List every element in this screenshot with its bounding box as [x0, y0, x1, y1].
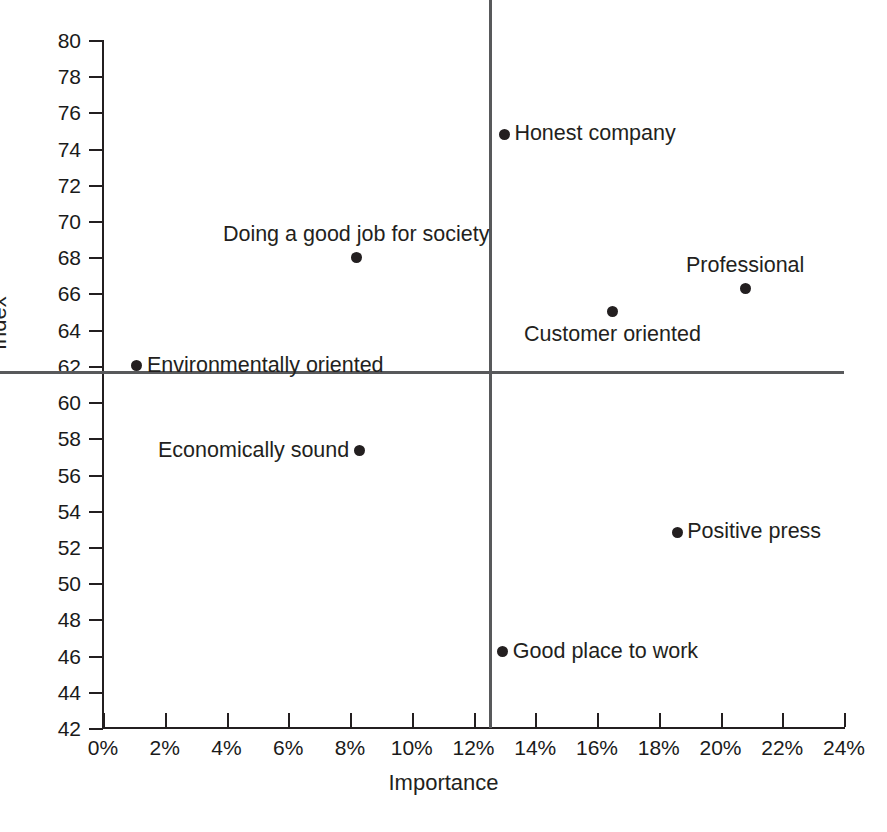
data-point-label: Honest company: [514, 123, 675, 145]
y-axis-tick-labels: 8078767472706866646260585654525048464442: [0, 40, 103, 728]
y-tick-label: 46: [58, 645, 81, 666]
y-tick-label: 64: [58, 319, 81, 340]
x-tick-label: 8%: [335, 737, 365, 758]
x-axis-tick-labels: 0%2%4%6%8%10%12%14%16%18%20%22%24%: [103, 737, 844, 763]
x-tick-label: 12%: [452, 737, 494, 758]
y-tick-label: 52: [58, 536, 81, 557]
x-tick-label: 18%: [638, 737, 680, 758]
x-tick-label: 2%: [150, 737, 180, 758]
y-axis-title: Index: [0, 296, 10, 350]
y-tick-label: 48: [58, 609, 81, 630]
x-tick-mark: [844, 713, 846, 727]
data-point[interactable]: [354, 445, 365, 456]
data-point-label: Environmentally oriented: [147, 355, 384, 377]
data-point[interactable]: [351, 252, 362, 263]
x-tick-label: 0%: [88, 737, 118, 758]
y-tick-label: 78: [58, 66, 81, 87]
scatter-chart: 8078767472706866646260585654525048464442…: [0, 0, 887, 832]
y-tick-label: 54: [58, 500, 81, 521]
x-tick-label: 24%: [823, 737, 865, 758]
y-tick-label: 74: [58, 138, 81, 159]
data-point[interactable]: [740, 283, 751, 294]
data-point[interactable]: [131, 360, 142, 371]
quadrant-divider-vertical: [489, 0, 492, 728]
y-tick-label: 58: [58, 428, 81, 449]
data-point-label: Economically sound: [158, 440, 349, 462]
x-tick-label: 6%: [273, 737, 303, 758]
y-tick-label: 44: [58, 681, 81, 702]
y-tick-label: 56: [58, 464, 81, 485]
y-tick-label: 42: [58, 718, 81, 739]
x-tick-label: 4%: [211, 737, 241, 758]
x-tick-label: 20%: [699, 737, 741, 758]
data-point-label: Doing a good job for society: [223, 224, 490, 246]
y-tick-label: 50: [58, 573, 81, 594]
y-tick-label: 72: [58, 174, 81, 195]
y-tick-label: 80: [58, 30, 81, 51]
y-tick-label: 68: [58, 247, 81, 268]
y-tick-label: 60: [58, 392, 81, 413]
x-tick-label: 16%: [576, 737, 618, 758]
x-tick-label: 22%: [761, 737, 803, 758]
y-tick-mark: [89, 728, 103, 730]
plot-area: Honest companyDoing a good job for socie…: [103, 40, 844, 728]
x-axis-title: Importance: [0, 772, 887, 794]
x-tick-label: 14%: [514, 737, 556, 758]
data-point-label: Professional: [686, 255, 804, 277]
data-point-label: Customer oriented: [524, 324, 701, 346]
y-tick-label: 66: [58, 283, 81, 304]
data-point[interactable]: [607, 306, 618, 317]
data-point[interactable]: [499, 129, 510, 140]
data-point-label: Positive press: [687, 522, 821, 544]
y-tick-label: 76: [58, 102, 81, 123]
data-point[interactable]: [672, 527, 683, 538]
x-tick-label: 10%: [391, 737, 433, 758]
quadrant-divider-horizontal: [0, 371, 844, 374]
data-point[interactable]: [497, 646, 508, 657]
y-tick-label: 70: [58, 211, 81, 232]
data-point-label: Good place to work: [513, 641, 698, 663]
